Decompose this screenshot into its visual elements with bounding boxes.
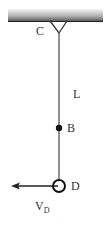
pendulum-diagram: C L B D VD — [0, 0, 109, 226]
ceiling — [8, 9, 103, 22]
label-velocity-main: V — [35, 199, 44, 213]
point-b-marker — [56, 125, 62, 131]
label-c: C — [36, 25, 44, 37]
label-l: L — [73, 88, 80, 100]
label-b: B — [67, 122, 75, 134]
label-velocity: VD — [35, 200, 49, 215]
label-d: D — [71, 180, 80, 192]
label-velocity-sub: D — [44, 206, 50, 215]
pendulum-svg — [0, 0, 109, 226]
pivot-hook-icon — [50, 21, 67, 33]
velocity-arrow-icon — [11, 183, 58, 190]
